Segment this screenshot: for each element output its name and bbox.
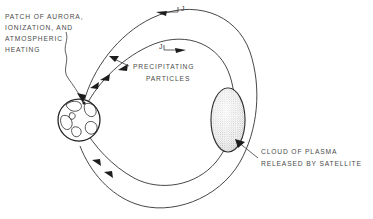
- diagram-canvas: PATCH OF AURORA, IONIZATION, AND ATMOSPH…: [0, 0, 373, 219]
- aurora-leader-line: [65, 32, 86, 103]
- precipitating-leader-line: [109, 56, 129, 66]
- figure-root: PATCH OF AURORA, IONIZATION, AND ATMOSPH…: [0, 0, 373, 219]
- cloud-label-line-2: RELEASED BY SATELLITE: [261, 160, 362, 167]
- aurora-label: PATCH OF AURORA, IONIZATION, AND ATMOSPH…: [5, 13, 83, 53]
- current-arrow-inner: [164, 45, 186, 53]
- aurora-label-line-1: PATCH OF AURORA,: [5, 13, 83, 20]
- earth-globe: [58, 99, 100, 141]
- aurora-label-line-2: IONIZATION, AND: [5, 24, 73, 31]
- cloud-label: CLOUD OF PLASMA RELEASED BY SATELLITE: [261, 148, 362, 167]
- precipitating-label-line-1: PRECIPITATING: [133, 63, 194, 70]
- cloud-leader-line: [235, 139, 258, 158]
- current-label-inner: J: [159, 43, 163, 50]
- aurora-label-line-3: ATMOSPHERIC: [5, 35, 63, 42]
- precipitating-label: PRECIPITATING PARTICLES: [133, 63, 194, 82]
- current-label-outer: J: [181, 5, 185, 12]
- aurora-label-line-4: HEATING: [5, 46, 40, 53]
- cloud-label-line-1: CLOUD OF PLASMA: [261, 148, 337, 155]
- precipitating-label-line-2: PARTICLES: [146, 75, 190, 82]
